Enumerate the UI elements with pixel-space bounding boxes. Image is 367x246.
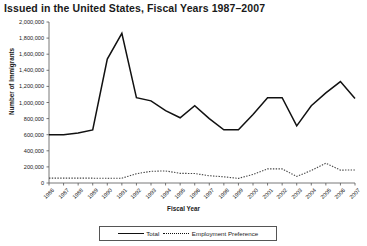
- legend-label-total: Total: [146, 230, 159, 237]
- series-line-total: [49, 33, 355, 134]
- series-line-employment-preference: [49, 163, 355, 178]
- solid-line-icon: [118, 233, 144, 234]
- chart-figure: Issued in the United States, Fiscal Year…: [0, 0, 367, 246]
- legend-item-employment-preference: Employment Preference: [163, 230, 258, 237]
- dotted-line-icon: [163, 233, 189, 234]
- legend-label-employment-preference: Employment Preference: [192, 230, 258, 237]
- chart-legend: Total Employment Preference: [99, 226, 277, 241]
- legend-item-total: Total: [118, 230, 160, 237]
- x-axis-title: Fiscal Year: [0, 205, 367, 212]
